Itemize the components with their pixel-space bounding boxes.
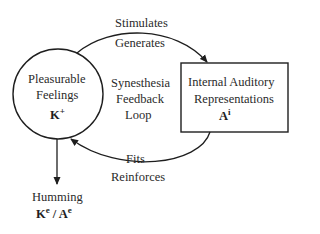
feedback-label: Feedback [116, 92, 164, 106]
fits-label: Fits [126, 152, 145, 166]
auditory-symbol: Ai [219, 107, 231, 124]
reinforces-label: Reinforces [111, 170, 165, 184]
humming-label: Humming [32, 190, 83, 204]
loop-label: Loop [125, 108, 151, 122]
auditory-label-line1: Internal Auditory [188, 75, 274, 89]
stimulates-label: Stimulates [115, 16, 168, 30]
feelings-symbol: K+ [50, 106, 65, 123]
generates-label: Generates [115, 36, 165, 50]
auditory-label-line2: Representations [194, 92, 274, 106]
synesthesia-label: Synesthesia [111, 76, 170, 90]
feelings-label-line2: Feelings [36, 88, 78, 102]
feelings-label-line1: Pleasurable [28, 72, 86, 86]
humming-symbol: Ke / Ae [36, 205, 72, 222]
